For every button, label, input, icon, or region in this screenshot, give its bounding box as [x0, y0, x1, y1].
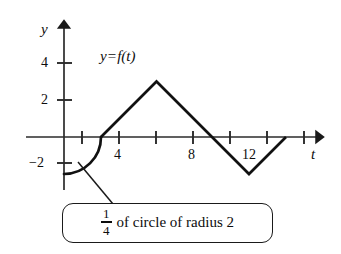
figure-container: y t 4 2 −2 4 8 12 y=f(t) 1 4 of circle o…	[0, 0, 341, 254]
curve-label-equals: =	[107, 48, 117, 64]
callout-text: 1 4 of circle of radius 2	[101, 208, 234, 237]
callout-description: of circle of radius 2	[117, 214, 234, 231]
y-tick-label-4: 4	[41, 56, 48, 70]
y-axis-label: y	[41, 22, 48, 37]
callout-box: 1 4 of circle of radius 2	[62, 203, 273, 243]
callout-leader-line	[78, 162, 113, 204]
fraction-one-quarter: 1 4	[101, 207, 112, 236]
curve-label-y: y	[100, 48, 107, 64]
x-tick-label-4: 4	[114, 148, 121, 162]
y-tick-label-2: 2	[41, 93, 48, 107]
x-tick-label-8: 8	[188, 148, 195, 162]
fraction-numerator: 1	[101, 207, 112, 221]
x-axis-label: t	[311, 147, 315, 162]
x-tick-label-12: 12	[242, 148, 256, 162]
curve-equation-label: y=f(t)	[100, 49, 135, 64]
fraction-denominator: 4	[101, 223, 112, 237]
curve-label-function: f(t)	[117, 48, 135, 64]
y-tick-label-minus-2: −2	[29, 156, 44, 170]
